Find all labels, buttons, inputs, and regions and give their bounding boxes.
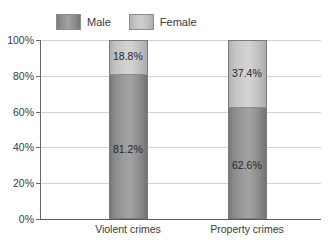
chart-legend: Male Female (56, 11, 197, 33)
gridline-20 (41, 183, 321, 184)
bar-segment-divider-violent-crimes (109, 74, 148, 75)
y-tick-mark-40 (36, 147, 40, 148)
plot-area: 100% 80% 60% 40% 20% 0% 18.8% 81.2% 37.4… (40, 40, 321, 219)
bar-violent-crimes[interactable]: 18.8% 81.2% (109, 40, 148, 219)
bar-property-crimes[interactable]: 37.4% 62.6% (228, 40, 267, 219)
stacked-bar-chart: Male Female 100% 80% 60% 40% 20% 0% (0, 0, 336, 247)
gridline-100 (41, 40, 321, 41)
y-tick-label-100: 100% (7, 35, 34, 46)
gridline-40 (41, 147, 321, 148)
legend-swatch-male-icon (56, 14, 81, 30)
y-tick-mark-100 (36, 40, 40, 41)
legend-swatch-female-icon (129, 14, 154, 30)
y-tick-mark-20 (36, 183, 40, 184)
y-tick-label-80: 80% (13, 71, 34, 82)
y-tick-label-0: 0% (19, 214, 34, 225)
gridline-80 (41, 76, 321, 77)
bar-label-male-property-crimes: 62.6% (232, 160, 262, 171)
y-tick-mark-80 (36, 76, 40, 77)
y-tick-label-20: 20% (13, 178, 34, 189)
gridline-60 (41, 112, 321, 113)
y-tick-mark-0 (36, 219, 40, 220)
legend-item-male[interactable]: Male (56, 14, 111, 30)
category-label-violent-crimes: Violent crimes (95, 224, 161, 235)
y-tick-mark-60 (36, 112, 40, 113)
category-label-property-crimes: Property crimes (210, 224, 284, 235)
legend-label-female: Female (160, 17, 197, 28)
y-tick-label-40: 40% (13, 142, 34, 153)
y-tick-label-60: 60% (13, 106, 34, 117)
x-axis-line (40, 219, 321, 220)
y-axis-line (40, 40, 41, 219)
bar-segment-divider-property-crimes (228, 107, 267, 108)
bar-label-female-violent-crimes: 18.8% (113, 51, 143, 62)
bar-label-male-violent-crimes: 81.2% (113, 144, 143, 155)
bar-label-female-property-crimes: 37.4% (232, 68, 262, 79)
legend-item-female[interactable]: Female (129, 14, 197, 30)
legend-label-male: Male (87, 17, 111, 28)
